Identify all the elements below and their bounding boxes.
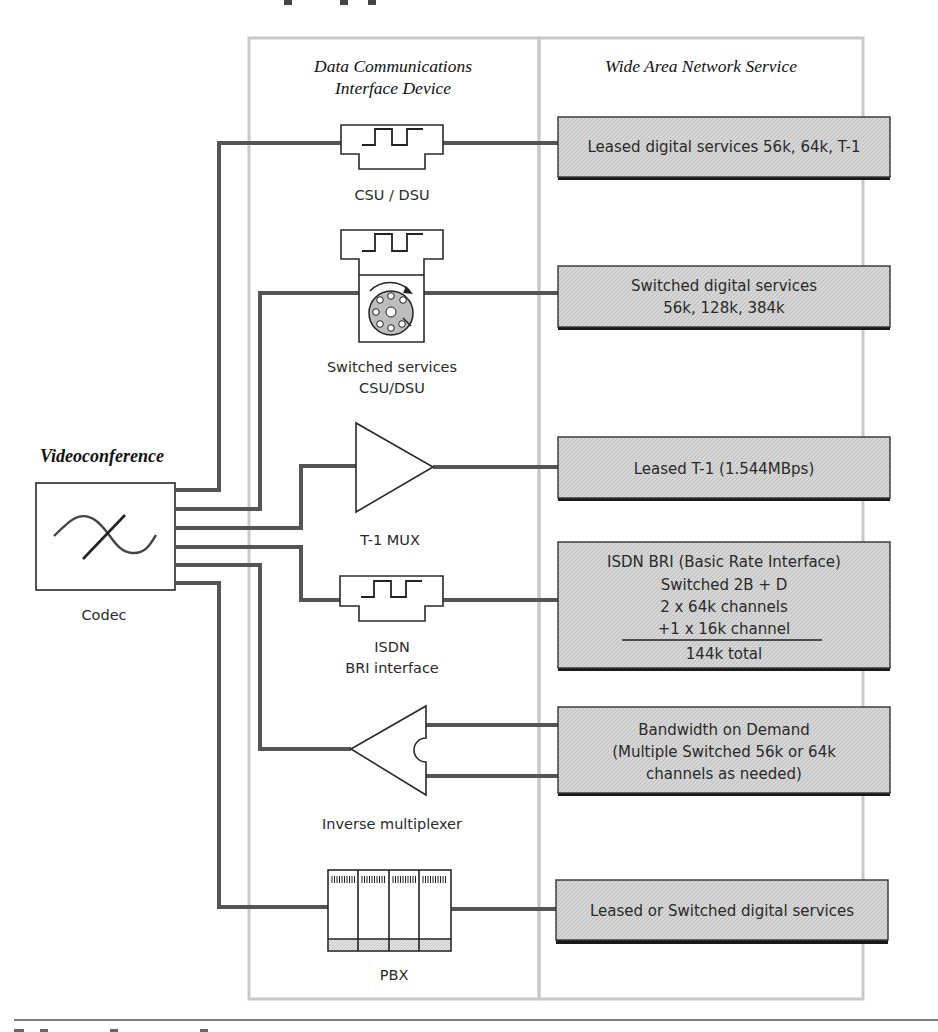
csu-dsu-device — [341, 125, 443, 169]
wan-service-panel — [539, 38, 863, 999]
interface-device-panel — [249, 38, 539, 999]
service-text: Leased digital services 56k, 64k, T-1 — [588, 138, 861, 156]
switched-csu-dsu-device — [341, 230, 443, 342]
inverse-mux-label: Inverse multiplexer — [322, 816, 462, 832]
codec-device — [36, 483, 175, 590]
cropped-top-text — [284, 0, 376, 5]
service-text: +1 x 16k channel — [658, 620, 790, 638]
network-diagram: Data Communications Interface Device Wid… — [0, 0, 938, 1032]
triangle-mux-icon — [356, 423, 433, 512]
csu-dsu-label: CSU / DSU — [354, 187, 429, 203]
service-box-switched-digital: Switched digital services 56k, 128k, 384… — [558, 266, 890, 330]
service-text: 56k, 128k, 384k — [663, 299, 785, 317]
service-text: (Multiple Switched 56k or 64k — [612, 743, 836, 761]
isdn-bri-device — [340, 576, 443, 621]
header-interface-device-line2: Interface Device — [334, 78, 451, 98]
header-interface-device-line1: Data Communications — [313, 56, 472, 76]
service-text: Leased or Switched digital services — [590, 902, 854, 920]
service-box-leased-digital: Leased digital services 56k, 64k, T-1 — [558, 117, 890, 180]
service-text: 2 x 64k channels — [660, 598, 788, 616]
service-text: Switched 2B + D — [661, 576, 788, 594]
header-wan-service: Wide Area Network Service — [605, 56, 797, 76]
service-box-bandwidth-on-demand: Bandwidth on Demand (Multiple Switched 5… — [558, 707, 890, 796]
switched-csu-dsu-label-line1: Switched services — [327, 359, 457, 375]
service-text: Bandwidth on Demand — [638, 721, 810, 739]
isdn-label-line2: BRI interface — [345, 660, 439, 676]
service-box-isdn-bri: ISDN BRI (Basic Rate Interface) Switched… — [558, 542, 890, 671]
service-text: ISDN BRI (Basic Rate Interface) — [607, 553, 841, 571]
service-text: channels as needed) — [646, 765, 802, 783]
inverse-triangle-icon — [351, 706, 426, 795]
t1-mux-label: T-1 MUX — [359, 532, 420, 548]
service-text: Switched digital services — [631, 277, 817, 295]
service-box-leased-or-switched: Leased or Switched digital services — [556, 880, 888, 944]
codec-label: Codec — [81, 607, 126, 623]
pbx-cabinet-icon — [328, 870, 451, 951]
switched-csu-dsu-label-line2: CSU/DSU — [359, 380, 425, 396]
service-text: 144k total — [686, 645, 762, 663]
service-box-leased-t1: Leased T-1 (1.544MBps) — [558, 437, 890, 501]
pbx-label: PBX — [380, 967, 409, 983]
videoconference-title: Videoconference — [40, 446, 164, 466]
isdn-label-line1: ISDN — [374, 639, 410, 655]
service-text: Leased T-1 (1.544MBps) — [634, 460, 815, 478]
